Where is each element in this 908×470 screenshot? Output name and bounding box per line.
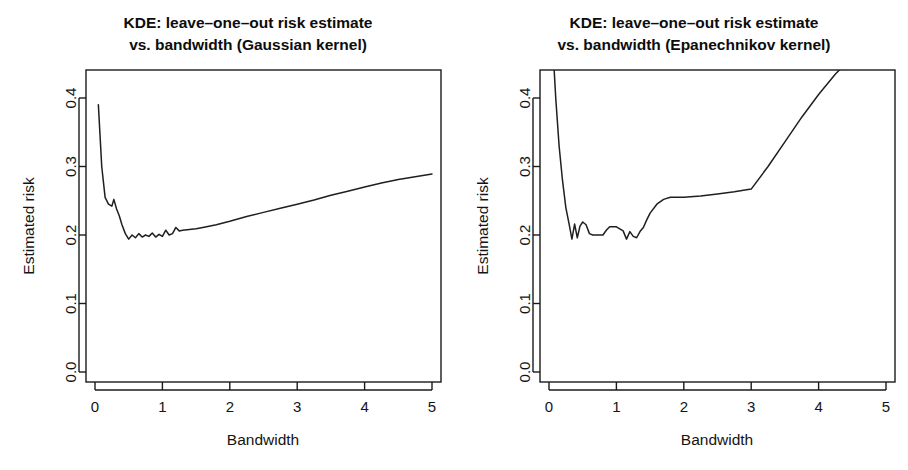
data-line-epanechnikov <box>553 50 846 239</box>
xtick-label-4-epanechnikov: 4 <box>814 398 822 415</box>
panel-gaussian: KDE: leave–one–out risk estimate vs. ban… <box>0 0 454 470</box>
y-axis-epanechnikov: 0.4 0.3 0.2 0.1 0.0 <box>516 88 541 383</box>
x-axis-title-epanechnikov: Bandwidth <box>681 431 753 448</box>
y-axis-gaussian: 0.4 0.3 0.2 0.1 0.0 <box>62 88 87 383</box>
xtick-label-1-epanechnikov: 1 <box>612 398 620 415</box>
ytick-label-0.1-gaussian: 0.1 <box>62 293 79 314</box>
x-axis-epanechnikov: 0 1 2 3 4 5 <box>545 382 890 415</box>
plot-frame-epanechnikov <box>540 70 895 382</box>
ytick-label-0.3-gaussian: 0.3 <box>62 156 79 177</box>
ytick-label-0.0-epanechnikov: 0.0 <box>516 362 533 383</box>
ytick-label-0.4-epanechnikov: 0.4 <box>516 88 533 109</box>
y-axis-title-gaussian: Estimated risk <box>20 177 37 275</box>
data-line-gaussian <box>98 105 432 239</box>
x-axis-gaussian: 0 1 2 3 4 5 <box>91 382 436 415</box>
plot-title-line1-epanechnikov: KDE: leave–one–out risk estimate <box>570 14 819 31</box>
ytick-label-0.2-epanechnikov: 0.2 <box>516 225 533 246</box>
xtick-label-0-epanechnikov: 0 <box>545 398 553 415</box>
x-axis-title-gaussian: Bandwidth <box>227 431 299 448</box>
xtick-label-2-epanechnikov: 2 <box>680 398 688 415</box>
ytick-label-0.3-epanechnikov: 0.3 <box>516 156 533 177</box>
plot-title-line2-gaussian: vs. bandwidth (Gaussian kernel) <box>129 36 367 53</box>
ytick-label-0.0-gaussian: 0.0 <box>62 362 79 383</box>
ytick-label-0.1-epanechnikov: 0.1 <box>516 293 533 314</box>
xtick-label-2-gaussian: 2 <box>226 398 234 415</box>
xtick-label-4-gaussian: 4 <box>360 398 368 415</box>
plot-title-line1-gaussian: KDE: leave–one–out risk estimate <box>124 14 373 31</box>
ytick-label-0.2-gaussian: 0.2 <box>62 225 79 246</box>
xtick-label-3-epanechnikov: 3 <box>747 398 755 415</box>
plot-title-line2-epanechnikov: vs. bandwidth (Epanechnikov kernel) <box>557 36 830 53</box>
xtick-label-5-epanechnikov: 5 <box>882 398 890 415</box>
kde-risk-figure: KDE: leave–one–out risk estimate vs. ban… <box>0 0 908 470</box>
y-axis-title-epanechnikov: Estimated risk <box>474 177 491 275</box>
xtick-label-1-gaussian: 1 <box>158 398 166 415</box>
ytick-label-0.4-gaussian: 0.4 <box>62 88 79 109</box>
xtick-label-0-gaussian: 0 <box>91 398 99 415</box>
xtick-label-3-gaussian: 3 <box>293 398 301 415</box>
panel-epanechnikov: KDE: leave–one–out risk estimate vs. ban… <box>454 0 908 470</box>
xtick-label-5-gaussian: 5 <box>428 398 436 415</box>
plot-epanechnikov: KDE: leave–one–out risk estimate vs. ban… <box>454 0 908 470</box>
plot-gaussian: KDE: leave–one–out risk estimate vs. ban… <box>0 0 454 470</box>
plot-frame-gaussian <box>86 70 441 382</box>
